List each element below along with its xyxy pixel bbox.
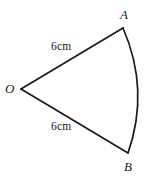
diagram-background: [0, 0, 159, 178]
vertex-label-o: O: [5, 82, 14, 95]
sector-diagram-figure: A O B 6cm 6cm: [0, 0, 159, 178]
sector-drawing: [0, 0, 159, 178]
vertex-label-b: B: [124, 160, 132, 173]
measurement-label-oa: 6cm: [51, 41, 71, 53]
vertex-label-a: A: [120, 8, 128, 21]
measurement-label-ob: 6cm: [51, 121, 71, 133]
